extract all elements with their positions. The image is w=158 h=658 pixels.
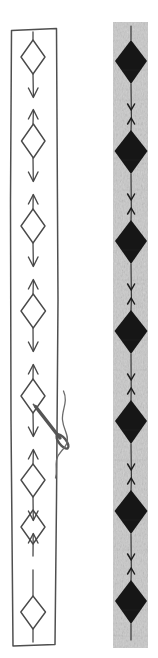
left-panel-outline-strip [11,29,59,647]
pattern-strips-svg [0,0,158,658]
outline-strip-border [11,29,59,647]
right-panel-grey-strip [113,22,148,648]
figure-root [0,0,158,658]
